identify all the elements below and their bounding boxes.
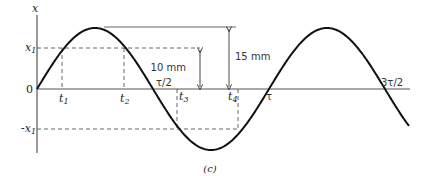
figure-caption: (c) — [203, 163, 217, 174]
dimension-label-15mm: 15 mm — [235, 51, 270, 62]
neg-x1-label: -x1 — [21, 122, 36, 136]
three-half-period-label: 3τ/2 — [381, 77, 403, 88]
t2-label: t2 — [120, 92, 130, 106]
y-axis-label: x — [32, 2, 39, 15]
half-period-label: τ/2 — [156, 77, 172, 88]
sine-wave-diagram: x 0 x1 -x1 t1 t2 t3 t4 τ/2 τ 3τ/2 10 mm … — [0, 0, 431, 176]
t4-label: t4 — [228, 90, 238, 104]
period-label: τ — [266, 91, 272, 102]
dimension-label-10mm: 10 mm — [151, 62, 186, 73]
x1-label: x1 — [25, 41, 36, 55]
t1-label: t1 — [59, 92, 69, 106]
t3-label: t3 — [179, 90, 189, 104]
origin-label: 0 — [26, 83, 33, 96]
